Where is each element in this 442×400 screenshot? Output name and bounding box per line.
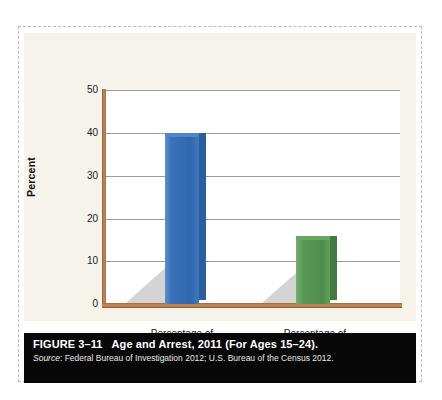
bar-all-arrests	[165, 137, 199, 304]
y-axis-tick-labels: 50 40 30 20 10 0	[68, 33, 98, 321]
y-tick-40: 40	[72, 127, 98, 138]
figure-caption-band: FIGURE 3–11Age and Arrest, 2011 (For Age…	[24, 333, 416, 383]
gridline-20	[106, 219, 400, 220]
gridline-50	[106, 90, 400, 91]
bar-side-face-us-population	[330, 236, 337, 300]
figure-source-line: Source: Federal Bureau of Investigation …	[33, 353, 407, 364]
y-tick-20: 20	[72, 213, 98, 224]
figure-caption-title: FIGURE 3–11Age and Arrest, 2011 (For Age…	[33, 338, 407, 350]
y-axis-line	[102, 89, 106, 304]
y-tick-50: 50	[72, 84, 98, 95]
figure-container: 50 40 30 20 10 0 Percent Percentage	[0, 0, 442, 400]
gridline-40	[106, 133, 400, 134]
bar-front-face-all-arrests	[165, 137, 199, 304]
y-tick-0: 0	[72, 298, 98, 309]
gridline-10	[106, 261, 400, 262]
y-axis-title: Percent	[25, 157, 37, 197]
bar-us-population	[296, 240, 330, 304]
figure-number: FIGURE 3–11	[33, 338, 103, 350]
bar-front-face-us-population	[296, 240, 330, 304]
y-tick-10: 10	[72, 255, 98, 266]
bar-shadow-us-population	[262, 273, 296, 303]
y-tick-30: 30	[72, 170, 98, 181]
source-label: Source	[33, 353, 60, 363]
chart-panel: 50 40 30 20 10 0 Percent Percentage	[24, 33, 416, 321]
figure-title-text: Age and Arrest, 2011 (For Ages 15–24).	[112, 338, 319, 350]
x-axis-line	[102, 303, 402, 308]
bar-side-face-all-arrests	[199, 133, 206, 300]
source-text: : Federal Bureau of Investigation 2012; …	[60, 353, 334, 363]
bar-shadow-all-arrests	[126, 268, 165, 303]
gridline-30	[106, 176, 400, 177]
